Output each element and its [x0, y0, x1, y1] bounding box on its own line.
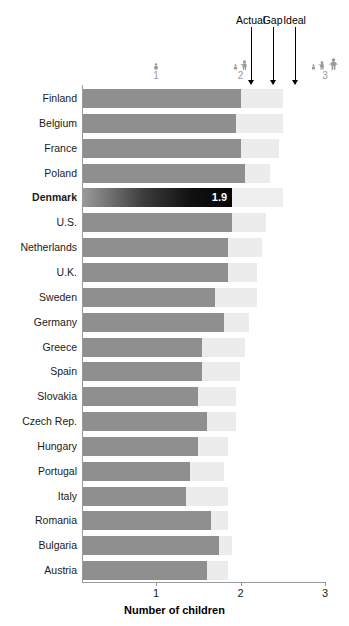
x-axis-title: Number of children — [0, 604, 349, 616]
person-adult-icon — [328, 43, 340, 70]
bar-segment-actual — [83, 139, 241, 158]
person-figures — [232, 42, 249, 70]
annotation-label-gap: Gap — [263, 14, 283, 26]
icon-legend-group-1: 1 — [153, 42, 160, 81]
bar-segment-actual — [83, 188, 232, 207]
bar-segment-actual — [83, 238, 228, 257]
x-axis-line — [82, 582, 326, 583]
bar-row — [83, 263, 325, 282]
annotation-arrow-actual-icon — [251, 27, 252, 84]
bar-row — [83, 387, 325, 406]
bar-segment-gap — [236, 114, 282, 133]
bar-segment-gap — [215, 288, 257, 307]
chart-root: ActualGapIdeal 123 FinlandBelgiumFranceP… — [0, 0, 349, 626]
bar-segment-gap — [190, 462, 224, 481]
bar-segment-gap — [241, 89, 283, 108]
category-label-austria: Austria — [1, 561, 77, 580]
bar-segment-actual — [83, 561, 207, 580]
bar-segment-gap — [232, 213, 266, 232]
bar-segment-gap — [224, 313, 249, 332]
bar-segment-gap — [207, 412, 237, 431]
person-child-icon — [239, 49, 249, 70]
bar-segment-gap — [228, 238, 262, 257]
x-tick-label: 2 — [237, 587, 243, 599]
bar-segment-actual — [83, 437, 198, 456]
bar-segment-gap — [186, 487, 228, 506]
category-label-sweden: Sweden — [1, 288, 77, 307]
bar-segment-actual — [83, 387, 198, 406]
person-figures — [311, 42, 340, 70]
category-label-u-s: U.S. — [1, 213, 77, 232]
bar-row — [83, 362, 325, 381]
icon-legend-count: 1 — [153, 70, 160, 81]
bar-row — [83, 412, 325, 431]
icon-legend-count: 3 — [311, 70, 340, 81]
plot-area: 1.9 — [83, 85, 325, 582]
bar-segment-actual — [83, 412, 207, 431]
bar-segment-gap — [198, 437, 228, 456]
annotation-arrow-gap-icon — [273, 27, 274, 84]
bar-segment-actual — [83, 338, 202, 357]
bar-segment-gap — [228, 263, 258, 282]
bar-row — [83, 313, 325, 332]
bar-value-label: 1.9 — [212, 190, 227, 205]
x-tick — [156, 582, 157, 586]
bar-row — [83, 89, 325, 108]
bar-segment-gap — [219, 536, 232, 555]
icon-legend-group-2: 2 — [232, 42, 249, 81]
bar-row — [83, 164, 325, 183]
bar-segment-actual — [83, 288, 215, 307]
person-figures — [153, 42, 160, 70]
bar-segment-actual — [83, 89, 241, 108]
bar-segment-actual — [83, 313, 224, 332]
bar-segment-actual — [83, 462, 190, 481]
category-label-czech-rep: Czech Rep. — [1, 412, 77, 431]
y-axis-line — [82, 85, 83, 582]
bar-segment-gap — [211, 511, 228, 530]
x-tick — [325, 582, 326, 586]
bar-segment-gap — [198, 387, 236, 406]
person-child-icon — [318, 50, 327, 70]
bar-row — [83, 536, 325, 555]
icon-legend-group-3: 3 — [311, 42, 340, 81]
bar-segment-actual — [83, 164, 245, 183]
category-label-germany: Germany — [1, 313, 77, 332]
x-tick-label: 1 — [153, 587, 159, 599]
bar-segment-actual — [83, 511, 211, 530]
category-label-romania: Romania — [1, 511, 77, 530]
bar-row — [83, 561, 325, 580]
category-label-portugal: Portugal — [1, 462, 77, 481]
category-label-italy: Italy — [1, 487, 77, 506]
category-label-hungary: Hungary — [1, 437, 77, 456]
bar-row — [83, 139, 325, 158]
bar-row — [83, 462, 325, 481]
annotation-label-actual: Actual — [236, 14, 265, 26]
category-label-spain: Spain — [1, 362, 77, 381]
category-label-finland: Finland — [1, 89, 77, 108]
bar-segment-actual — [83, 487, 186, 506]
bar-row — [83, 338, 325, 357]
bar-row — [83, 288, 325, 307]
bar-segment-gap — [232, 188, 283, 207]
bar-row — [83, 238, 325, 257]
category-label-belgium: Belgium — [1, 114, 77, 133]
icon-legend-count: 2 — [232, 70, 249, 81]
bar-row — [83, 114, 325, 133]
annotation-arrow-ideal-icon — [295, 27, 296, 84]
bar-row: 1.9 — [83, 188, 325, 207]
category-label-denmark: Denmark — [1, 188, 77, 207]
category-label-poland: Poland — [1, 164, 77, 183]
category-label-netherlands: Netherlands — [1, 238, 77, 257]
bar-segment-actual — [83, 536, 219, 555]
bar-segment-gap — [241, 139, 279, 158]
bar-segment-actual — [83, 263, 228, 282]
bar-segment-actual — [83, 362, 202, 381]
bar-row — [83, 213, 325, 232]
person-toddler-icon — [311, 57, 317, 70]
bar-row — [83, 511, 325, 530]
person-toddler-icon — [232, 56, 238, 70]
bar-row — [83, 487, 325, 506]
x-tick-label: 3 — [322, 587, 328, 599]
bar-segment-gap — [245, 164, 270, 183]
annotation-label-ideal: Ideal — [283, 14, 306, 26]
